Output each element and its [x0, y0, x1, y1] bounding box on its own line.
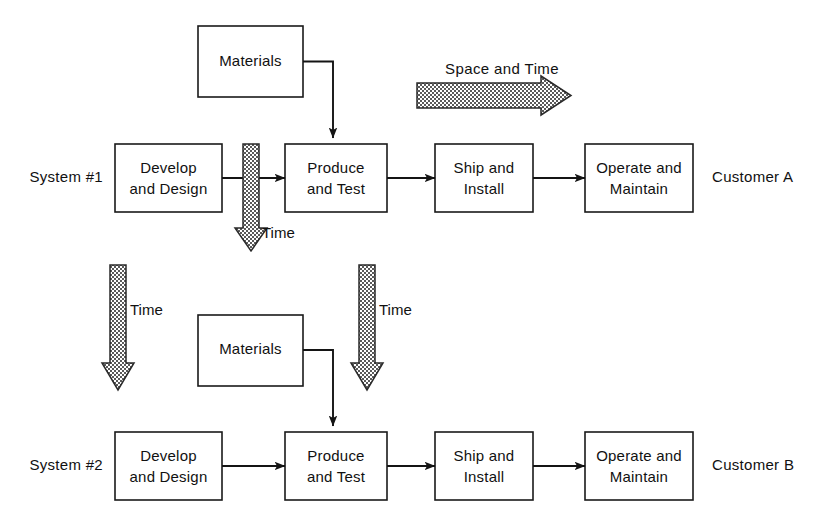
materials-box-2-label: Materials: [219, 340, 282, 357]
time-arrow-3: [351, 265, 383, 390]
system-2-stage-develop-and-design[interactable]: Develop and Design: [115, 432, 222, 500]
system-2-stage-4-rect: [585, 432, 693, 500]
diagram-canvas: Materials System #1 Develop and Design P…: [0, 0, 816, 532]
customer-b-label: Customer B: [712, 456, 794, 473]
materials-2-connector: [303, 350, 333, 426]
system-2-stage-operate-and-maintain[interactable]: Operate and Maintain: [585, 432, 693, 500]
system-1-stage-2-line2: and Test: [307, 180, 366, 197]
system-1-stage-operate-and-maintain[interactable]: Operate and Maintain: [585, 144, 693, 212]
system-1-stage-3-line2: Install: [464, 180, 505, 197]
system-2-stage-2-rect: [285, 432, 387, 500]
system-1-stage-1-line2: and Design: [130, 180, 208, 197]
system-2-stage-produce-and-test[interactable]: Produce and Test: [285, 432, 387, 500]
system-1-stage-3-line1: Ship and: [454, 159, 515, 176]
system-1-stage-develop-and-design[interactable]: Develop and Design: [115, 144, 222, 212]
space-and-time-label: Space and Time: [445, 60, 559, 77]
system-2-stage-4-line1: Operate and: [596, 447, 682, 464]
space-and-time-arrow-group: Space and Time: [417, 60, 571, 115]
system-1-stage-4-line2: Maintain: [610, 180, 668, 197]
system-2-stage-2-line2: and Test: [307, 468, 366, 485]
system-1-stage-2-rect: [285, 144, 387, 212]
system-1-group: Materials System #1 Develop and Design P…: [29, 26, 793, 212]
time-arrow-3-label: Time: [379, 301, 412, 318]
materials-box-2[interactable]: Materials: [198, 315, 303, 386]
materials-1-connector: [303, 62, 333, 139]
system-2-stage-3-rect: [435, 432, 533, 500]
system-2-stage-4-line2: Maintain: [610, 468, 668, 485]
system-2-stage-3-line1: Ship and: [454, 447, 515, 464]
system-1-stage-3-rect: [435, 144, 533, 212]
system-1-stage-1-rect: [115, 144, 222, 212]
space-and-time-block-arrow: [417, 76, 571, 115]
system-1-stage-1-line1: Develop: [140, 159, 196, 176]
time-arrow-2-group: Time: [102, 265, 163, 390]
time-arrow-2: [102, 265, 134, 390]
system-2-stage-1-line1: Develop: [140, 447, 196, 464]
materials-box-1-label: Materials: [219, 52, 282, 69]
system-2-stage-ship-and-install[interactable]: Ship and Install: [435, 432, 533, 500]
system-2-stage-1-line2: and Design: [130, 468, 208, 485]
system-2-stage-2-line1: Produce: [307, 447, 364, 464]
system-1-stage-4-line1: Operate and: [596, 159, 682, 176]
customer-a-label: Customer A: [712, 168, 793, 185]
time-arrow-3-group: Time: [351, 265, 412, 390]
system-2-label: System #2: [29, 456, 103, 473]
system-2-group: Materials System #2 Develop and Design P…: [29, 315, 794, 500]
system-1-stage-2-line1: Produce: [307, 159, 364, 176]
materials-box-1[interactable]: Materials: [198, 26, 303, 97]
system-2-stage-1-rect: [115, 432, 222, 500]
system-1-stage-4-rect: [585, 144, 693, 212]
time-arrow-1-label: Time: [262, 224, 295, 241]
system-2-stage-3-line2: Install: [464, 468, 505, 485]
time-arrow-2-label: Time: [130, 301, 163, 318]
system-1-label: System #1: [29, 168, 103, 185]
flow-diagram-svg: Materials System #1 Develop and Design P…: [0, 0, 816, 532]
system-1-stage-ship-and-install[interactable]: Ship and Install: [435, 144, 533, 212]
system-1-stage-produce-and-test[interactable]: Produce and Test: [285, 144, 387, 212]
